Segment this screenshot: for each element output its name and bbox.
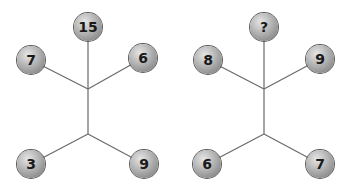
ball-lower-right: 9 <box>130 150 158 178</box>
ball-lower-left: 3 <box>17 150 45 178</box>
ball-upper-left: 7 <box>17 46 45 74</box>
ball-upper-right: 9 <box>306 45 334 73</box>
connector-lines <box>0 0 351 194</box>
ball-upper-right: 6 <box>129 44 157 72</box>
ball-lower-left: 6 <box>193 150 221 178</box>
ball-top: 15 <box>74 13 102 41</box>
ball-upper-left: 8 <box>194 46 222 74</box>
ball-lower-right: 7 <box>306 150 334 178</box>
ball-top-unknown: ? <box>250 13 278 41</box>
